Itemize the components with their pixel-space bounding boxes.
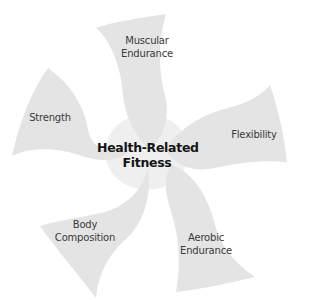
- label-body-composition: Body Composition: [52, 218, 118, 244]
- label-strength-line1: Strength: [22, 111, 78, 124]
- label-muscular-endurance: Muscular Endurance: [112, 34, 182, 60]
- center-title-line2: Fitness: [97, 155, 197, 170]
- center-title: Health-Related Fitness: [97, 140, 197, 170]
- label-strength: Strength: [22, 111, 78, 124]
- petal-aerobic-endurance: [166, 165, 255, 292]
- label-aerobic-endurance-line1: Aerobic: [176, 231, 236, 244]
- label-body-composition-line2: Composition: [52, 231, 118, 244]
- label-aerobic-endurance: Aerobic Endurance: [176, 231, 236, 257]
- center-title-line1: Health-Related: [97, 140, 197, 155]
- label-aerobic-endurance-line2: Endurance: [176, 244, 236, 257]
- label-body-composition-line1: Body: [52, 218, 118, 231]
- label-muscular-endurance-line1: Muscular: [112, 34, 182, 47]
- label-flexibility-line1: Flexibility: [224, 128, 284, 141]
- label-muscular-endurance-line2: Endurance: [112, 47, 182, 60]
- label-flexibility: Flexibility: [224, 128, 284, 141]
